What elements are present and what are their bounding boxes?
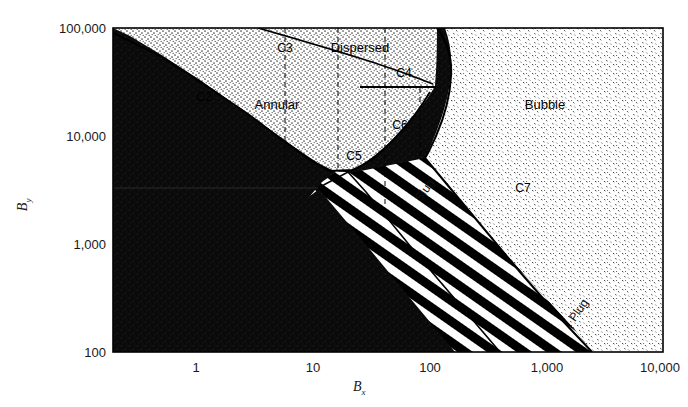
x-axis-title: Bx (353, 379, 366, 397)
curve-label-c6: C6 (392, 118, 407, 132)
x-tick-10000: 10,000 (640, 360, 680, 375)
curve-label-c7: C7 (515, 181, 530, 195)
flow-regime-map-figure: 100,000 10,000 1,000 100 1 10 100 1,000 … (0, 0, 688, 407)
curve-label-c4: C4 (396, 66, 411, 80)
y-axis-title: By (15, 199, 33, 212)
y-axis-title-base: B (15, 203, 30, 212)
region-label-dispersed: Dispersed (331, 40, 390, 55)
y-tick-100000: 100,000 (0, 21, 106, 36)
x-tick-10: 10 (306, 360, 320, 375)
x-tick-1000: 1,000 (531, 360, 564, 375)
curve-label-c3: C3 (277, 41, 292, 55)
y-tick-10000: 10,000 (0, 129, 106, 144)
x-axis-title-base: B (353, 379, 362, 394)
x-axis-title-subscript: x (362, 387, 366, 397)
y-tick-100: 100 (0, 345, 106, 360)
curve-label-c2: C2 (196, 90, 211, 104)
y-axis-title-subscript: y (23, 199, 33, 203)
y-tick-1000: 1,000 (0, 237, 106, 252)
x-tick-1: 1 (192, 360, 199, 375)
region-label-annular: Annular (255, 97, 300, 112)
region-label-bubble: Bubble (525, 97, 565, 112)
x-tick-100: 100 (419, 360, 441, 375)
curve-label-c5: C5 (346, 149, 361, 163)
